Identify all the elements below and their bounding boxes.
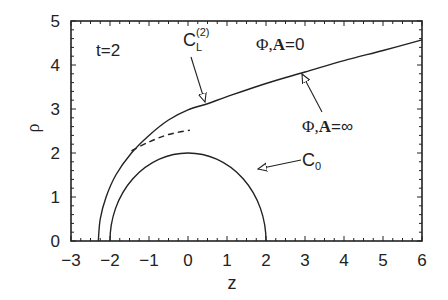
x-tick-label: 4 (339, 251, 348, 270)
phi-inf-annotation: Φ,A=∞ (302, 74, 353, 136)
cl2-annotation: C L (2) (183, 26, 209, 102)
c0-label-sub: 0 (315, 160, 321, 172)
x-tick-label: 5 (378, 251, 387, 270)
y-axis-title: ρ (23, 123, 43, 132)
series-group (98, 40, 422, 241)
c0-annotation: C 0 (258, 150, 321, 172)
x-tick-label: 6 (417, 251, 426, 270)
cl2-arrow (191, 57, 205, 102)
c0-curve (110, 153, 266, 241)
dashed-curve (131, 130, 190, 151)
cl2-curve (98, 40, 422, 241)
cl2-label-sub: L (196, 41, 202, 53)
x-tick-label: 0 (183, 251, 192, 270)
c0-label-main: C (302, 150, 315, 170)
x-tick-label: −3 (61, 251, 80, 270)
x-tick-label: −1 (139, 251, 158, 270)
cl2-label-sup: (2) (196, 26, 209, 38)
phi-zero-annotation: Φ,A=0 (256, 35, 304, 54)
x-tick-label: 1 (222, 251, 231, 270)
x-tick-label: −2 (100, 251, 119, 270)
phi-zero-label: Φ,A=0 (256, 35, 304, 54)
y-tick-label: 4 (51, 56, 60, 75)
x-tick-label: 2 (261, 251, 270, 270)
phi-inf-arrow (302, 74, 322, 112)
y-tick-label: 0 (51, 232, 60, 251)
y-tick-label: 5 (51, 12, 60, 31)
x-axis-title: z (228, 273, 237, 293)
phi-inf-label: Φ,A=∞ (302, 117, 353, 136)
c0-arrow (258, 160, 301, 169)
cl2-label-main: C (183, 30, 196, 50)
y-tick-label: 1 (51, 188, 60, 207)
y-tick-label: 3 (51, 100, 60, 119)
y-tick-label: 2 (51, 144, 60, 163)
chart: −3−2−10123456012345 z ρ t=2 C L (2) Φ,A=… (0, 0, 448, 300)
x-tick-label: 3 (300, 251, 309, 270)
t-label: t=2 (96, 41, 120, 60)
